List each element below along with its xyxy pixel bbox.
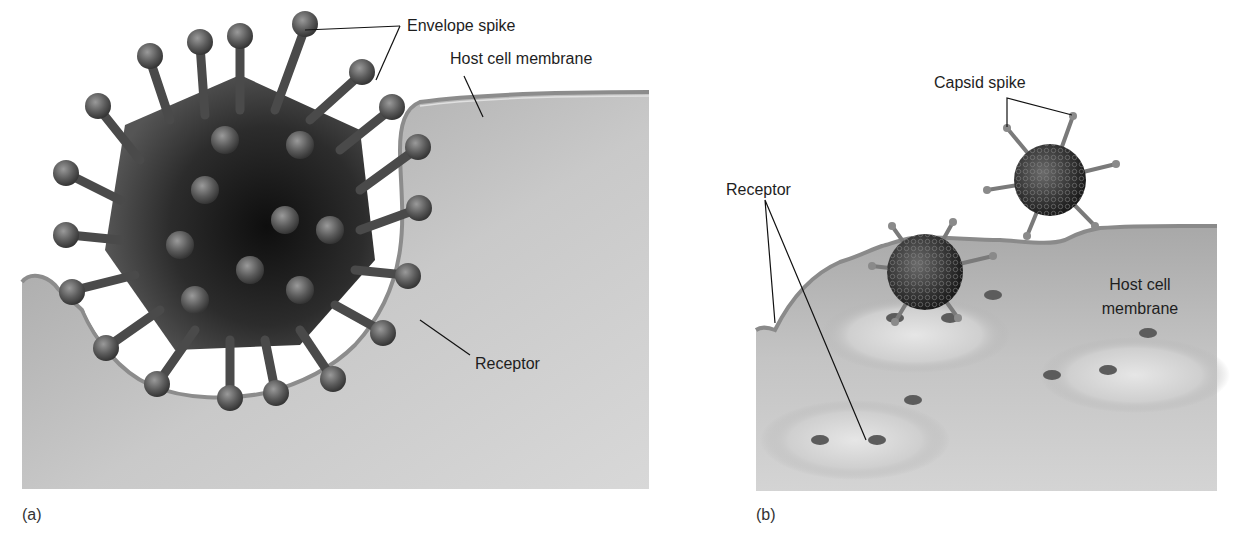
label-envelope-spike: Envelope spike [407,17,516,35]
label-host-cell-line2: membrane [1090,300,1190,318]
figure-canvas [0,0,1235,549]
panel-tag-a: (a) [22,506,42,524]
label-receptor-a: Receptor [475,355,540,373]
label-capsid-spike: Capsid spike [934,74,1026,92]
label-host-cell-line1: Host cell [1090,276,1190,294]
panel-tag-b: (b) [756,506,776,524]
panel-a [22,11,649,489]
label-host-cell-membrane-b: Host cell membrane [1090,276,1190,318]
label-host-cell-membrane-a: Host cell membrane [450,50,592,68]
naked-virion-2 [983,112,1120,240]
label-receptor-b: Receptor [726,181,791,199]
